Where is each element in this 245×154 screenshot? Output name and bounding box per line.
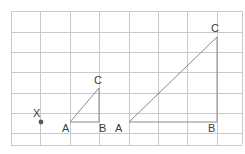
figure-canvas: X ABCABC [0, 0, 245, 154]
point-label-x: X [33, 107, 41, 119]
small-triangle-vertex-label-b: B [99, 122, 106, 134]
point-marker-x [39, 120, 44, 125]
geometry-figure: X ABCABC [0, 0, 245, 154]
large-triangle-vertex-label-a: A [115, 122, 123, 134]
small-triangle-vertex-label-c: C [94, 74, 102, 86]
small-triangle-vertex-label-a: A [62, 122, 70, 134]
large-triangle-vertex-label-c: C [211, 22, 219, 34]
large-triangle-vertex-label-b: B [208, 122, 215, 134]
